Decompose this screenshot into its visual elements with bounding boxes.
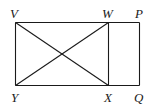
- label-x: X: [103, 90, 113, 105]
- label-w: W: [102, 6, 114, 21]
- label-p: P: [134, 6, 143, 21]
- label-v: V: [10, 6, 20, 21]
- label-q: Q: [134, 90, 144, 105]
- point-labels: V W P Y X Q: [10, 6, 144, 105]
- label-y: Y: [11, 90, 20, 105]
- geometry-diagram: V W P Y X Q: [0, 0, 149, 108]
- segments-group: [16, 23, 140, 86]
